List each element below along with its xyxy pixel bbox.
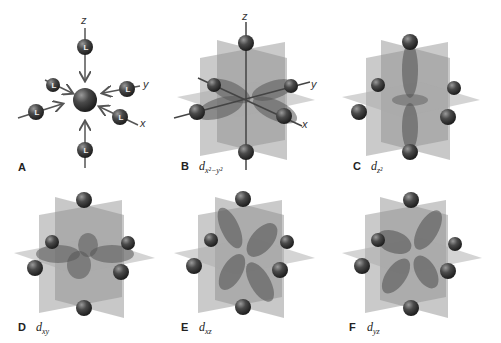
orbital-name: dxy — [36, 320, 49, 336]
panel-d-label: D dxy — [18, 320, 49, 336]
axis-label-z: z — [81, 14, 87, 26]
svg-text:L: L — [84, 43, 89, 52]
dyz-orbital-diagram — [330, 170, 501, 343]
panel-e: E dxz — [160, 170, 340, 343]
panel-f-label: F dyz — [349, 320, 380, 336]
dxz-orbital-diagram — [160, 170, 340, 343]
panel-letter: F — [349, 321, 367, 333]
metal-center — [73, 88, 97, 112]
axis-label-x: x — [302, 118, 308, 130]
dxy-orbital-diagram — [0, 170, 165, 343]
svg-text:L: L — [52, 81, 57, 90]
svg-text:L: L — [119, 113, 124, 122]
panel-f: F dyz — [330, 170, 501, 343]
axis-label-y: y — [311, 78, 317, 90]
panel-a: L L L L L L z y x A — [0, 0, 165, 170]
axis-label-x: x — [140, 117, 146, 129]
orbital-name: dyz — [367, 320, 380, 336]
svg-text:L: L — [126, 85, 131, 94]
svg-text:L: L — [84, 146, 89, 155]
panel-e-label: E dxz — [181, 320, 212, 336]
panel-b: z y x B dx²−y² — [160, 0, 340, 172]
panel-d: D dxy — [0, 170, 165, 343]
panel-letter: E — [181, 321, 199, 333]
axis-label-z: z — [242, 10, 248, 22]
svg-text:L: L — [35, 108, 40, 117]
panel-c: C dz² — [330, 0, 501, 172]
orbital-name: dxz — [199, 320, 212, 336]
dz2-orbital-diagram — [330, 0, 501, 172]
panel-letter: D — [18, 321, 36, 333]
axis-label-y: y — [143, 78, 149, 90]
